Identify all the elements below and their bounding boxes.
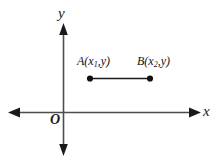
point-a-marker — [87, 75, 93, 81]
point-b-label: B(x2,y) — [137, 55, 170, 67]
point-b-paren-close: ) — [166, 54, 170, 68]
y-axis-down-arrowhead — [59, 144, 68, 156]
axes-and-segment-graphic — [0, 0, 220, 163]
x-axis-label: x — [203, 104, 210, 119]
x-axis-right-arrowhead — [189, 108, 201, 118]
y-axis-label: y — [58, 6, 65, 21]
coordinate-plane-figure: y x O A(x1,y) B(x2,y) — [0, 0, 220, 163]
point-a-variable: x — [88, 54, 93, 68]
origin-label: O — [50, 113, 60, 127]
point-a-paren-close: ) — [106, 54, 110, 68]
point-a-subscript: 1 — [94, 60, 98, 69]
point-a-label: A(x1,y) — [77, 55, 110, 67]
point-b-variable: x — [148, 54, 153, 68]
y-axis-up-arrowhead — [59, 23, 68, 35]
point-b-subscript: 2 — [154, 60, 158, 69]
point-b-marker — [147, 75, 153, 81]
x-axis-left-arrowhead — [8, 108, 20, 118]
